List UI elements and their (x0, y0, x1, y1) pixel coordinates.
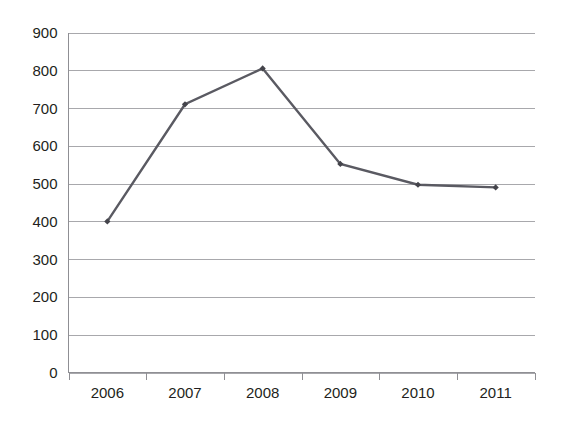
chart-canvas: 0100200300400500600700800900 20062007200… (0, 0, 561, 430)
y-tick-label-500: 500 (32, 175, 57, 192)
x-tick-label-2006: 2006 (91, 384, 124, 401)
x-tick-label-2009: 2009 (324, 384, 357, 401)
y-tick-label-700: 700 (32, 100, 57, 117)
y-tick-label-0: 0 (49, 364, 57, 381)
y-tick-label-600: 600 (32, 137, 57, 154)
x-tick-label-2007: 2007 (168, 384, 201, 401)
y-tick-label-400: 400 (32, 213, 57, 230)
y-tick-label-100: 100 (32, 326, 57, 343)
x-tick-label-2011: 2011 (480, 384, 512, 401)
x-tick-label-2008: 2008 (246, 384, 279, 401)
line-chart: 0100200300400500600700800900 20062007200… (0, 0, 561, 430)
x-tick-label-2010: 2010 (401, 384, 434, 401)
y-tick-label-300: 300 (32, 251, 57, 268)
y-tick-label-200: 200 (32, 288, 57, 305)
y-tick-label-900: 900 (32, 24, 57, 41)
y-tick-label-800: 800 (32, 62, 57, 79)
chart-background (0, 0, 561, 430)
